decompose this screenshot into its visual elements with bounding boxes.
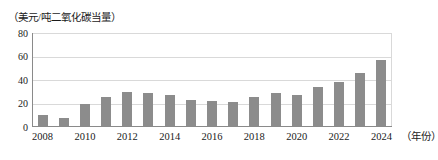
x-tick-label-2014: 2014 bbox=[159, 131, 180, 143]
bar-2009 bbox=[59, 118, 69, 126]
bar-2020 bbox=[292, 95, 302, 126]
bar-2023 bbox=[355, 73, 365, 126]
bar-2017 bbox=[228, 102, 238, 126]
plot-area bbox=[32, 33, 392, 127]
bar-2011 bbox=[101, 97, 111, 126]
bar-series bbox=[32, 33, 392, 127]
bar-chart: （美元/吨二氧化碳当量） 80 60 40 20 0 （年份） 20082010… bbox=[0, 0, 438, 160]
x-tick-label-2008: 2008 bbox=[32, 131, 53, 143]
bar-2021 bbox=[313, 87, 323, 126]
y-tick-label-40: 40 bbox=[18, 76, 28, 86]
bar-2014 bbox=[165, 95, 175, 126]
y-tick-label-80: 80 bbox=[18, 29, 28, 39]
bar-2019 bbox=[271, 93, 281, 126]
bar-2013 bbox=[143, 93, 153, 126]
x-tick-label-2016: 2016 bbox=[202, 131, 223, 143]
bar-2015 bbox=[186, 100, 196, 126]
x-tick-label-2012: 2012 bbox=[117, 131, 138, 143]
x-tick-label-2018: 2018 bbox=[244, 131, 265, 143]
bar-2008 bbox=[38, 115, 48, 126]
x-tick-label-2022: 2022 bbox=[329, 131, 350, 143]
bar-2010 bbox=[80, 104, 90, 126]
bar-2024 bbox=[376, 60, 386, 126]
x-tick-label-2024: 2024 bbox=[371, 131, 392, 143]
y-tick-label-20: 20 bbox=[18, 99, 28, 109]
x-tick-label-2020: 2020 bbox=[286, 131, 307, 143]
x-axis-caption: （年份） bbox=[401, 131, 438, 143]
y-tick-label-60: 60 bbox=[18, 52, 28, 62]
x-axis-tick-labels: （年份） 20082010201220142016201820202022202… bbox=[0, 131, 438, 151]
bar-2022 bbox=[334, 82, 344, 126]
x-tick-label-2010: 2010 bbox=[74, 131, 95, 143]
bar-2012 bbox=[122, 92, 132, 126]
bar-2016 bbox=[207, 101, 217, 126]
bar-2018 bbox=[249, 97, 259, 126]
